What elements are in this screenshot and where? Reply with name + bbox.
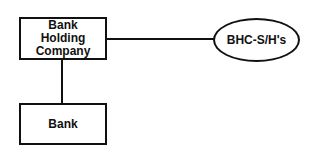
ownership-diagram: Bank Holding Company Bank BHC-S/H's	[0, 0, 316, 154]
connector-holding-to-shareholders	[107, 38, 214, 40]
node-bank-holding-company-label: Bank Holding Company	[36, 19, 91, 58]
connector-holding-to-bank	[61, 60, 63, 103]
node-bank-label: Bank	[48, 118, 77, 131]
node-bhc-shareholders: BHC-S/H's	[213, 18, 300, 62]
node-bank: Bank	[19, 103, 107, 145]
label-line-3: Company	[36, 45, 91, 58]
node-bhc-shareholders-label: BHC-S/H's	[227, 33, 287, 47]
node-bank-holding-company: Bank Holding Company	[19, 17, 107, 60]
